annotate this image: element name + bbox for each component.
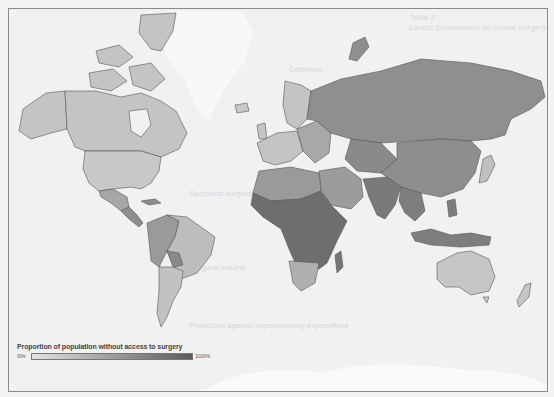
region-southern-cone — [157, 267, 183, 327]
region-caribbean — [141, 199, 161, 205]
region-indonesia — [411, 229, 491, 247]
region-south-asia — [363, 177, 401, 219]
world-map — [9, 9, 548, 392]
region-madagascar — [335, 251, 343, 273]
region-alaska — [19, 91, 67, 139]
region-scandinavia — [283, 81, 311, 129]
map-frame: Table 2 Lancet Commission on Global Surg… — [8, 8, 548, 392]
legend: Proportion of population without access … — [17, 343, 217, 373]
region-japan — [479, 155, 495, 183]
region-tasmania — [483, 297, 489, 303]
region-novaya-zemlya — [349, 37, 369, 61]
region-philippines — [447, 199, 457, 217]
legend-min-label: 0% — [17, 353, 26, 359]
region-antarctica — [201, 365, 548, 393]
region-southern-africa — [289, 261, 319, 291]
region-central-america — [121, 207, 143, 227]
region-canada — [65, 91, 187, 157]
region-mexico — [99, 189, 129, 211]
region-canada-arctic — [96, 45, 133, 67]
region-canada-arctic — [129, 63, 165, 91]
region-new-zealand — [517, 283, 531, 307]
region-united-states — [83, 151, 161, 191]
legend-gradient-bar — [31, 353, 193, 360]
region-uk — [257, 123, 267, 139]
legend-max-label: 100% — [195, 353, 210, 359]
legend-title: Proportion of population without access … — [17, 343, 182, 350]
region-australia — [437, 251, 495, 295]
region-canada-arctic — [89, 69, 127, 91]
region-iceland — [235, 103, 249, 113]
region-russia — [307, 59, 545, 143]
